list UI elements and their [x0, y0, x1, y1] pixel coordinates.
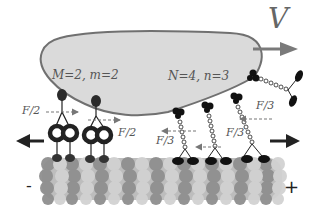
- kinesin-motor-1: [172, 108, 199, 166]
- force-label-right-3: F/3: [226, 126, 244, 139]
- dynein-motor-1: [50, 89, 77, 162]
- plus-end-label: +: [284, 176, 299, 197]
- force-label-left-2: F/2: [118, 126, 136, 139]
- motor-transport-diagram: V M=2, m=2 N=4, n=3 F/2 F/2 F/3 F/3 F/3 …: [0, 0, 320, 218]
- velocity-label: V: [268, 2, 288, 35]
- minus-end-label: -: [26, 176, 32, 195]
- plus-direction-arrow: [270, 134, 300, 148]
- force-label-left-1: F/2: [22, 104, 40, 117]
- force-label-right-2: F/3: [156, 134, 174, 147]
- microtubule: [39, 157, 287, 205]
- left-group-label: M=2, m=2: [52, 68, 119, 82]
- right-group-label: N=4, n=3: [168, 69, 229, 83]
- minus-direction-arrow: [16, 134, 44, 148]
- force-label-right-1: F/3: [256, 99, 274, 112]
